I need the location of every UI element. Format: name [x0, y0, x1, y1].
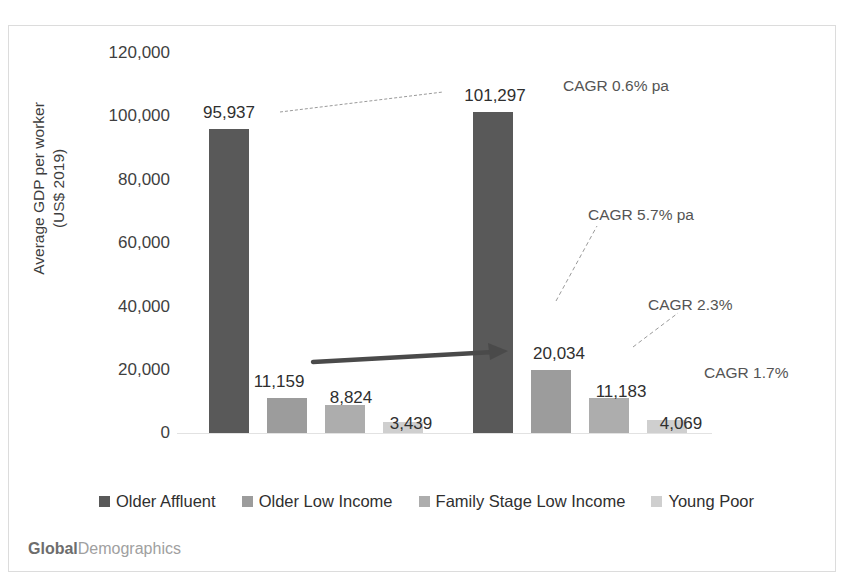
legend-swatch-icon — [99, 496, 110, 507]
x-axis-baseline — [177, 433, 712, 434]
bar-label-young-poor-g2: 4,069 — [660, 414, 703, 434]
brand-light: Demographics — [78, 540, 181, 557]
legend-swatch-icon — [242, 496, 253, 507]
bar-family-stage-low-income-g2 — [589, 398, 629, 433]
bar-label-young-poor-g1: 3,439 — [390, 414, 433, 434]
bar-older-affluent-g1 — [209, 129, 249, 433]
bar-label-older-affluent-g1: 95,937 — [203, 103, 255, 123]
bar-older-affluent-g2 — [473, 112, 513, 433]
chart-screenshot: Average GDP per worker (US$ 2019) 120,00… — [0, 0, 853, 583]
bar-family-stage-low-income-g1 — [325, 405, 365, 433]
legend-label: Young Poor — [668, 492, 754, 511]
legend-item-young-poor[interactable]: Young Poor — [651, 492, 754, 511]
legend-swatch-icon — [419, 496, 430, 507]
bar-label-family-stage-low-income-g1: 8,824 — [330, 388, 373, 408]
chart-legend: Older AffluentOlder Low IncomeFamily Sta… — [0, 492, 853, 511]
legend-label: Family Stage Low Income — [436, 492, 626, 511]
annotation-cagr-4: CAGR 1.7% — [704, 364, 788, 382]
bar-label-older-low-income-g2: 20,034 — [533, 344, 585, 364]
bar-older-low-income-g1 — [267, 398, 307, 433]
bar-older-low-income-g2 — [531, 370, 571, 433]
legend-item-older-affluent[interactable]: Older Affluent — [99, 492, 216, 511]
annotation-cagr-1: CAGR 0.6% pa — [563, 77, 669, 95]
legend-swatch-icon — [651, 496, 662, 507]
annotation-cagr-3: CAGR 2.3% — [648, 296, 732, 314]
brand-logo: GlobalDemographics — [28, 540, 181, 558]
legend-item-older-low-income[interactable]: Older Low Income — [242, 492, 393, 511]
legend-item-family-stage-low-income[interactable]: Family Stage Low Income — [419, 492, 626, 511]
annotation-cagr-2: CAGR 5.7% pa — [588, 206, 694, 224]
brand-strong: Global — [28, 540, 78, 557]
bar-label-older-affluent-g2: 101,297 — [464, 86, 525, 106]
legend-label: Older Low Income — [259, 492, 393, 511]
bar-label-family-stage-low-income-g2: 11,183 — [596, 382, 647, 402]
legend-label: Older Affluent — [116, 492, 216, 511]
bar-label-older-low-income-g1: 11,159 — [254, 372, 305, 392]
